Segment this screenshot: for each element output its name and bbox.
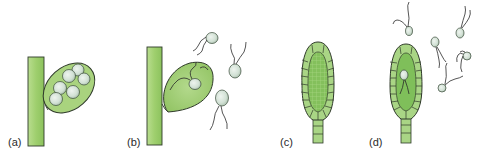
spore-icon: [50, 93, 63, 106]
antherozoid-d5: [438, 63, 463, 92]
spore-icon: [406, 27, 413, 36]
flagellum-icon: [460, 51, 465, 52]
spore-icon: [67, 86, 80, 99]
flagellum-icon: [445, 76, 463, 85]
spore-icon: [78, 73, 90, 85]
panel-label-a: (a): [8, 136, 21, 148]
antherozoid-d3: [431, 37, 446, 68]
panel-d: [390, 2, 471, 143]
flagellum-icon: [221, 106, 227, 129]
spore-icon: [216, 90, 229, 106]
spore-icon: [206, 33, 218, 44]
flagellum-icon: [393, 20, 407, 27]
flagellum-icon: [437, 47, 446, 62]
spore-icon: [63, 70, 76, 83]
spore-icon: [456, 28, 464, 38]
spore-icon: [463, 52, 471, 60]
algae-reproduction-diagram: (a) (b) (c) (d): [0, 0, 482, 159]
filament-b: [147, 47, 162, 145]
antherozoid-d4: [457, 51, 471, 72]
panel-label-d: (d): [369, 136, 382, 148]
zoospore-b3: [210, 90, 229, 130]
spore-icon: [400, 70, 408, 80]
flagellum-icon: [210, 106, 219, 130]
flagellum-icon: [231, 44, 235, 64]
flagellum-icon: [445, 63, 447, 84]
flagellum-icon: [236, 42, 246, 64]
filament-a: [28, 57, 44, 146]
spore-icon: [189, 79, 201, 90]
panel-label-c: (c): [280, 136, 293, 148]
spermatogenous-tissue-c: [308, 52, 328, 112]
spore-icon: [438, 84, 446, 92]
zoospore-b1: [193, 33, 218, 56]
antherozoid-d1: [393, 2, 413, 36]
diagram-canvas: [0, 0, 482, 159]
empty-sporangium-b: [164, 62, 213, 112]
stalk-c: [313, 118, 323, 143]
zoospore-b2: [229, 42, 246, 78]
panel-label-b: (b): [127, 136, 140, 148]
flagellum-icon: [408, 2, 409, 27]
panel-b: [147, 33, 246, 146]
antherozoid-d2: [456, 6, 470, 38]
spore-icon: [229, 64, 241, 78]
panel-c: [301, 42, 334, 143]
stalk-d: [401, 117, 411, 143]
flagellum-icon: [461, 56, 463, 72]
spore-icon: [431, 37, 439, 47]
panel-a: [28, 53, 105, 146]
flagellum-icon: [197, 40, 207, 55]
